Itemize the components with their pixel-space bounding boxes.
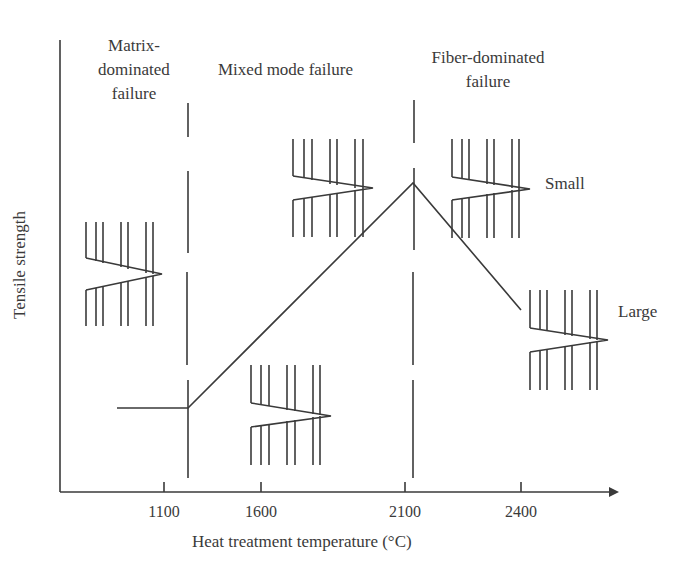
region-matrix-line3: failure	[84, 82, 184, 106]
tensile-strength-curve	[117, 183, 521, 408]
region-mixed-text: Mixed mode failure	[218, 60, 353, 79]
x-tick-label-1100: 1100	[134, 503, 194, 521]
crack-schematic-matrix-icon	[86, 222, 162, 326]
region-label-fiber: Fiber-dominated failure	[418, 46, 558, 94]
x-tick-label-2400: 2400	[491, 503, 551, 521]
region-label-mixed: Mixed mode failure	[218, 58, 353, 82]
region-fiber-line2: failure	[418, 70, 558, 94]
region-matrix-line2: dominated	[84, 58, 184, 82]
x-axis-title: Heat treatment temperature (°C)	[192, 530, 412, 554]
crack-schematic-fiber-small-icon	[452, 139, 530, 238]
region-matrix-line1: Matrix-	[84, 34, 184, 58]
boundary-matrix-mixed	[187, 103, 188, 478]
annotation-large: Large	[618, 300, 657, 324]
y-axis-title: Tensile strength	[10, 195, 30, 335]
region-fiber-line1: Fiber-dominated	[418, 46, 558, 70]
x-axis-arrow-icon	[609, 487, 619, 497]
crack-schematic-large-icon	[530, 290, 608, 390]
region-label-matrix: Matrix- dominated failure	[84, 34, 184, 106]
x-tick-label-1600: 1600	[231, 503, 291, 521]
crack-schematic-mixed-lower-icon	[251, 365, 331, 465]
annotation-small: Small	[545, 172, 585, 196]
crack-schematic-mixed-upper-icon	[293, 139, 373, 237]
x-ticks	[164, 482, 521, 492]
x-tick-label-2100: 2100	[375, 503, 435, 521]
boundary-mixed-fiber	[413, 100, 414, 478]
